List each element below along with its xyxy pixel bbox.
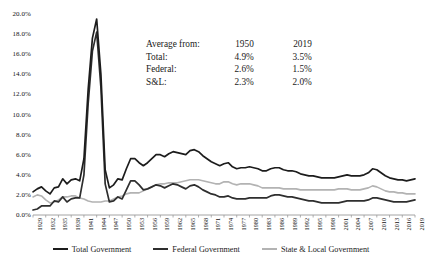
averages-annotation: Average from:19502019Total:4.9%3.5%Feder… — [146, 38, 312, 88]
averages-row-label: Federal: — [146, 63, 210, 76]
y-axis-tick-label: 20.0% — [12, 10, 31, 18]
x-axis-tick-label: 1986 — [278, 218, 285, 230]
series-line — [33, 180, 415, 203]
x-axis: 1929193219351938194119441947195019531956… — [33, 216, 415, 240]
x-axis-tick-label: 1998 — [329, 218, 336, 230]
averages-value-1950: 1950 — [210, 38, 254, 51]
x-axis-tick-label: 1989 — [291, 218, 298, 230]
legend-item: Total Government — [53, 245, 132, 254]
averages-table: Average from:19502019Total:4.9%3.5%Feder… — [146, 38, 312, 88]
x-axis-tick-label: 1941 — [87, 218, 94, 230]
y-axis-tick-label: 12.0% — [12, 90, 31, 98]
legend-label: State & Local Government — [281, 245, 369, 254]
averages-row: Average from:19502019 — [146, 38, 312, 51]
averages-row-label: Total: — [146, 51, 210, 64]
y-axis-tick-label: 10.0% — [12, 111, 31, 119]
y-axis-tick-label: 2.0% — [16, 191, 31, 199]
averages-row-label: Average from: — [146, 38, 210, 51]
x-axis-tick-label: 1977 — [240, 218, 247, 230]
y-axis-tick-label: 6.0% — [16, 151, 31, 159]
x-axis-tick-label: 1980 — [252, 218, 259, 230]
x-axis-tick-label: 2001 — [342, 218, 349, 230]
chart-legend: Total GovernmentFederal GovernmentState … — [0, 240, 422, 258]
y-axis-tick-label: 0.0% — [16, 211, 31, 219]
averages-value-2019: 1.5% — [254, 63, 312, 76]
x-axis-tick-label: 1944 — [100, 218, 107, 230]
x-axis-tick-label: 2004 — [354, 218, 361, 230]
averages-value-2019: 2019 — [254, 38, 312, 51]
y-axis-tick-label: 16.0% — [12, 50, 31, 58]
x-axis-tick-label: 2010 — [380, 218, 387, 230]
x-axis-tick-label: 1971 — [214, 218, 221, 230]
averages-value-2019: 2.0% — [254, 76, 312, 89]
x-axis-tick-label: 1968 — [202, 218, 209, 230]
x-axis-tick-label: 2013 — [393, 218, 400, 230]
x-axis-tick-label: 2019 — [418, 218, 425, 230]
averages-value-1950: 2.6% — [210, 63, 254, 76]
averages-value-1950: 4.9% — [210, 51, 254, 64]
x-axis-tick-label: 1974 — [227, 218, 234, 230]
x-axis-tick-label: 1956 — [151, 218, 158, 230]
x-axis-tick-label: 1929 — [36, 218, 43, 230]
legend-swatch-icon — [53, 248, 68, 250]
averages-value-2019: 3.5% — [254, 51, 312, 64]
averages-row: Federal:2.6%1.5% — [146, 63, 312, 76]
averages-value-1950: 2.3% — [210, 76, 254, 89]
x-axis-tick-label: 1983 — [265, 218, 272, 230]
y-axis-tick-label: 8.0% — [16, 131, 31, 139]
y-axis-tick-label: 18.0% — [12, 30, 31, 38]
averages-row: S&L:2.3%2.0% — [146, 76, 312, 89]
x-axis-tick-label: 1992 — [303, 218, 310, 230]
x-axis-tick-label: 1959 — [163, 218, 170, 230]
averages-row-label: S&L: — [146, 76, 210, 89]
legend-swatch-icon — [153, 248, 168, 250]
legend-item: State & Local Government — [262, 245, 369, 254]
x-axis-tick-label: 1962 — [176, 218, 183, 230]
x-axis-tick-label: 1932 — [49, 218, 56, 230]
x-axis-tick-label: 2007 — [367, 218, 374, 230]
x-axis-tick-label: 1953 — [138, 218, 145, 230]
legend-item: Federal Government — [153, 245, 240, 254]
averages-row: Total:4.9%3.5% — [146, 51, 312, 64]
legend-label: Federal Government — [172, 245, 240, 254]
y-axis: 20.0%18.0%16.0%14.0%12.0%10.0%8.0%6.0%4.… — [0, 0, 31, 262]
x-axis-tick-label: 1965 — [189, 218, 196, 230]
x-axis-tick-label: 1938 — [74, 218, 81, 230]
x-axis-tick-label: 1995 — [316, 218, 323, 230]
x-axis-tick-label: 1947 — [112, 218, 119, 230]
x-axis-tick-label: 1935 — [61, 218, 68, 230]
legend-label: Total Government — [72, 245, 132, 254]
x-axis-tick-label: 2016 — [405, 218, 412, 230]
legend-swatch-icon — [262, 248, 277, 250]
y-axis-tick-label: 4.0% — [16, 171, 31, 179]
x-axis-tick-label: 1950 — [125, 218, 132, 230]
y-axis-tick-label: 14.0% — [12, 70, 31, 78]
